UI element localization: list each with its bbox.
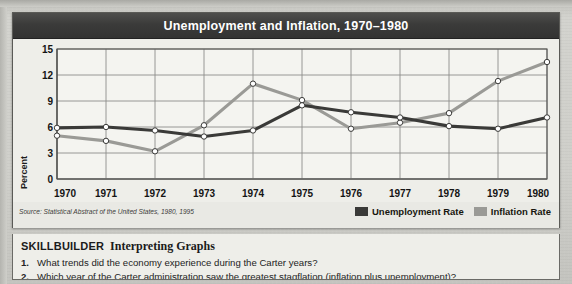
legend-label: Inflation Rate — [491, 206, 551, 217]
x-axis: 1970197119721973197419751976197719781979… — [13, 186, 559, 202]
x-tick-label: 1977 — [389, 188, 411, 199]
x-axis-ticks: 1970197119721973197419751976197719781979… — [13, 186, 559, 202]
page-root: Unemployment and Inflation, 1970–1980 Pe… — [0, 0, 572, 284]
x-tick-label: 1972 — [144, 188, 166, 199]
chart-legend: Unemployment RateInflation Rate — [355, 206, 551, 217]
x-tick-label: 1979 — [487, 188, 509, 199]
skillbuilder-label: SKILLBUILDER — [21, 240, 104, 252]
legend-item: Unemployment Rate — [355, 206, 464, 217]
question-number: 1. — [21, 257, 32, 270]
skillbuilder-question: 2.Which year of the Carter administratio… — [21, 271, 551, 280]
figure-footer: Source: Statistical Abstract of the Unit… — [13, 202, 559, 228]
figure-card: Unemployment and Inflation, 1970–1980 Pe… — [12, 12, 560, 228]
line-chart — [13, 39, 561, 202]
skillbuilder-subtitle: Interpreting Graphs — [104, 239, 215, 253]
x-tick-label: 1975 — [291, 188, 313, 199]
x-tick-label: 1978 — [438, 188, 460, 199]
question-text: What trends did the economy experience d… — [37, 257, 318, 270]
x-tick-label: 1976 — [340, 188, 362, 199]
legend-swatch-icon — [355, 207, 368, 216]
question-text: Which year of the Carter administration … — [37, 271, 456, 280]
page-left-edge — [0, 7, 7, 284]
x-tick-label: 1980 — [527, 188, 549, 199]
x-tick-label: 1973 — [193, 188, 215, 199]
legend-swatch-icon — [474, 207, 487, 216]
source-note: Source: Statistical Abstract of the Unit… — [19, 208, 194, 215]
legend-label: Unemployment Rate — [372, 206, 464, 217]
x-tick-label: 1970 — [54, 188, 76, 199]
plot-area: Percent 03691215 19701971197219731974197… — [13, 39, 559, 202]
skillbuilder-questions: 1.What trends did the economy experience… — [21, 257, 551, 280]
x-tick-label: 1974 — [242, 188, 264, 199]
skillbuilder-heading: SKILLBUILDERInterpreting Graphs — [21, 239, 551, 254]
question-number: 2. — [21, 271, 32, 280]
skillbuilder-question: 1.What trends did the economy experience… — [21, 257, 551, 270]
page-top-edge — [0, 0, 572, 7]
skillbuilder-panel: SKILLBUILDERInterpreting Graphs 1.What t… — [12, 234, 560, 280]
legend-item: Inflation Rate — [474, 206, 551, 217]
chart-title: Unemployment and Inflation, 1970–1980 — [13, 13, 559, 39]
x-tick-label: 1971 — [95, 188, 117, 199]
